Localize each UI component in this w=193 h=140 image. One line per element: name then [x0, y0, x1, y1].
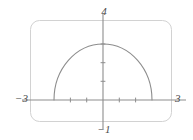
- x-min-label: −3: [4, 93, 28, 104]
- graph-figure: 4 −1 −3 3: [0, 0, 193, 140]
- plot-frame: [31, 21, 172, 122]
- plot-canvas: [0, 0, 193, 140]
- y-max-label: 4: [95, 6, 113, 17]
- x-max-label: 3: [175, 93, 189, 104]
- y-min-label: −1: [93, 124, 115, 135]
